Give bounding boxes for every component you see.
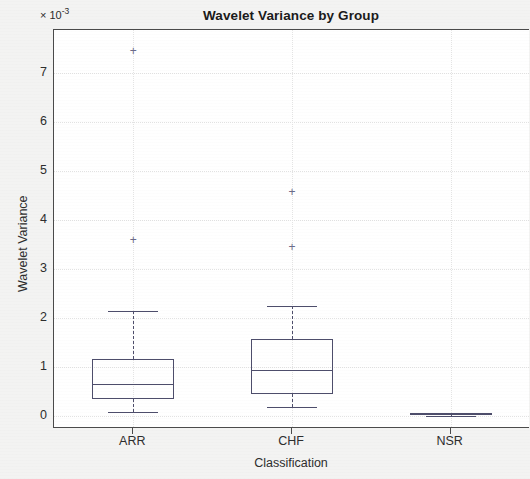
chart-title: Wavelet Variance by Group bbox=[53, 8, 529, 23]
x-tick-label-nsr: NSR bbox=[436, 434, 462, 448]
x-tick-label-arr: ARR bbox=[119, 434, 145, 448]
y-tick-label: 1 bbox=[5, 359, 47, 373]
y-tick-label: 5 bbox=[5, 163, 47, 177]
x-tick-mark bbox=[132, 428, 133, 434]
x-tick-mark bbox=[450, 428, 451, 434]
y-tick-label: 6 bbox=[5, 114, 47, 128]
whisker-cap-lower bbox=[426, 416, 476, 417]
y-tick-label: 7 bbox=[5, 65, 47, 79]
y-tick-label: 3 bbox=[5, 261, 47, 275]
y-axis-title: Wavelet Variance bbox=[16, 195, 30, 292]
y-tick-label: 2 bbox=[5, 310, 47, 324]
x-tick-mark bbox=[291, 428, 292, 434]
y-tick-label: 0 bbox=[5, 408, 47, 422]
plot-area bbox=[53, 29, 529, 428]
y-tick-label: 4 bbox=[5, 212, 47, 226]
x-tick-label-chf: CHF bbox=[278, 434, 304, 448]
x-axis-title: Classification bbox=[53, 456, 529, 470]
median-line bbox=[410, 414, 492, 415]
figure-canvas: × 10-3 Wavelet Variance by Group Wavelet… bbox=[0, 0, 530, 479]
boxplot-nsr bbox=[54, 30, 530, 427]
